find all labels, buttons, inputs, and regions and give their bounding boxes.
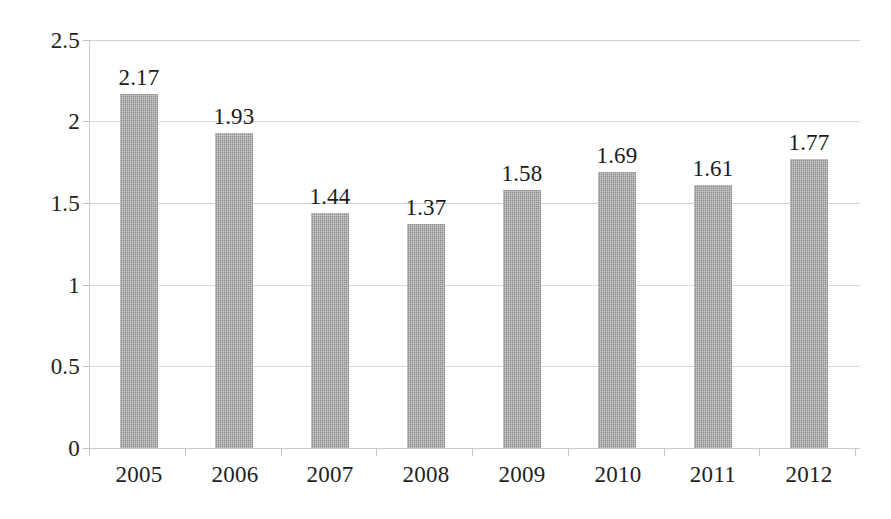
x-tick-0 [89, 449, 90, 456]
gridline-0-5 [89, 366, 860, 367]
data-label-2011: 1.61 [665, 157, 761, 181]
y-axis-tick-label-0: 0 [6, 437, 80, 460]
data-label-2012: 1.77 [761, 131, 857, 155]
y-axis-tick-label-0-5: 0.5 [6, 355, 80, 378]
x-axis-tick-label-2007: 2007 [282, 462, 378, 488]
y-axis-tick-label-1-5: 1.5 [6, 192, 80, 215]
y-tick-2-5 [83, 40, 89, 41]
x-tick-4 [472, 449, 473, 456]
x-tick-6 [664, 449, 665, 456]
bar-2010 [598, 172, 636, 448]
x-tick-1 [185, 449, 186, 456]
bar-2008 [407, 224, 445, 448]
bar-2012 [790, 159, 828, 448]
y-tick-1-5 [83, 203, 89, 204]
x-tick-2 [281, 449, 282, 456]
gridline-1-5 [89, 203, 860, 204]
bar-2011 [694, 185, 732, 448]
gridline-0-baseline [89, 448, 860, 449]
data-label-2008: 1.37 [378, 196, 474, 220]
y-axis-tick-label-2-5: 2.5 [6, 29, 80, 52]
data-label-2009: 1.58 [474, 162, 570, 186]
bar-2007 [311, 213, 349, 448]
x-axis-tick-label-2008: 2008 [378, 462, 474, 488]
x-axis-tick-label-2006: 2006 [187, 462, 283, 488]
x-tick-7 [759, 449, 760, 456]
x-axis-labels: 2005 2006 2007 2008 2009 2010 2011 2012 [0, 462, 891, 502]
x-axis-tick-label-2009: 2009 [474, 462, 570, 488]
data-label-2006: 1.93 [186, 105, 282, 129]
x-axis-tick-label-2005: 2005 [91, 462, 187, 488]
x-axis-tick-label-2011: 2011 [665, 462, 761, 488]
y-tick-2 [83, 121, 89, 122]
bar-2005 [120, 94, 158, 448]
y-tick-1 [83, 285, 89, 286]
data-label-2007: 1.44 [282, 185, 378, 209]
x-tick-8 [855, 449, 856, 456]
x-axis-tick-label-2010: 2010 [570, 462, 666, 488]
y-axis-labels: 2.5 2 1.5 1 0.5 0 [0, 0, 80, 519]
bar-2009 [503, 190, 541, 448]
x-axis-tick-label-2012: 2012 [761, 462, 857, 488]
bar-2006 [215, 133, 253, 448]
y-tick-0-5 [83, 366, 89, 367]
plot-area [89, 40, 860, 448]
y-axis-line [89, 40, 90, 449]
gridline-2-5 [89, 40, 860, 41]
bar-chart: 2.5 2 1.5 1 0.5 0 2.17 1.93 1.44 1.37 1.… [0, 0, 891, 519]
data-label-2005: 2.17 [91, 66, 187, 90]
gridline-1 [89, 285, 860, 286]
y-axis-tick-label-1: 1 [6, 274, 80, 297]
data-label-2010: 1.69 [569, 144, 665, 168]
y-axis-tick-label-2: 2 [6, 110, 80, 133]
x-tick-5 [568, 449, 569, 456]
x-tick-3 [376, 449, 377, 456]
